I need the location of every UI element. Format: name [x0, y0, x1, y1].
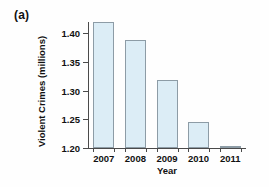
x-tick-label: 2011 [220, 153, 241, 164]
x-tick-label: 2009 [156, 153, 177, 164]
y-tick-mark [83, 33, 88, 34]
y-axis-title: Violent Crimes (millions) [36, 22, 47, 162]
y-tick-mark [83, 148, 88, 149]
x-tick-label: 2008 [125, 153, 146, 164]
y-tick-mark [83, 91, 88, 92]
bar [157, 80, 178, 148]
x-tick-mark [146, 148, 147, 152]
y-tick-mark [83, 119, 88, 120]
x-tick-label: 2010 [188, 153, 209, 164]
y-axis-line [88, 22, 89, 148]
y-tick-label: 1.25 [62, 114, 81, 125]
plot-area: 1.201.251.301.351.40 2007200820092010201… [88, 22, 246, 148]
x-tick-mark [188, 148, 189, 152]
x-axis-title: Year [88, 165, 246, 176]
y-tick-label: 1.35 [62, 57, 81, 68]
x-tick-mark [114, 148, 115, 152]
x-tick-mark [93, 148, 94, 152]
bar [125, 40, 146, 148]
y-tick-label: 1.40 [62, 28, 81, 39]
x-tick-mark [125, 148, 126, 152]
bar [220, 146, 241, 148]
x-tick-mark [178, 148, 179, 152]
bar [93, 22, 114, 148]
panel-label: (a) [14, 8, 29, 22]
x-tick-label: 2007 [93, 153, 114, 164]
violent-crimes-bar-chart-figure: (a) Violent Crimes (millions) 1.201.251.… [0, 0, 269, 187]
x-tick-mark [241, 148, 242, 152]
y-tick-mark [83, 62, 88, 63]
y-tick-label: 1.30 [62, 85, 81, 96]
y-tick-label: 1.20 [62, 143, 81, 154]
x-tick-mark [157, 148, 158, 152]
x-tick-mark [220, 148, 221, 152]
bar [188, 122, 209, 148]
x-tick-mark [209, 148, 210, 152]
